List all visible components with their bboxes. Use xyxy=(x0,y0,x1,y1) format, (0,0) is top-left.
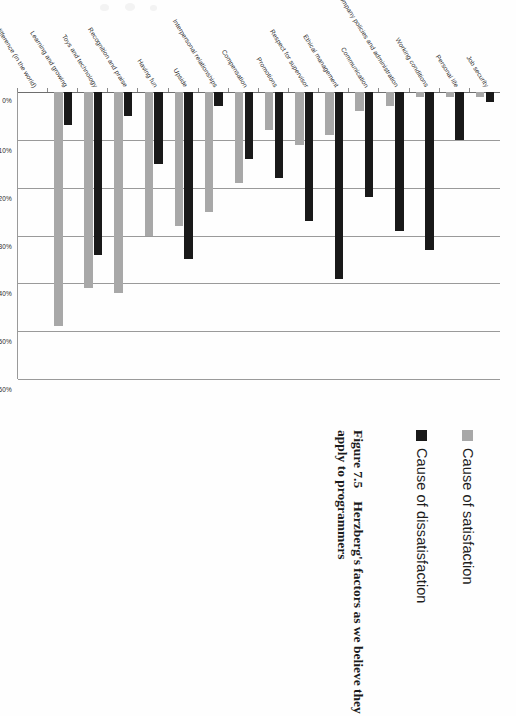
bar-satisfaction xyxy=(355,92,363,111)
bar-dissatisfaction xyxy=(335,92,343,279)
figure-caption: Figure 7.5Herzberg's factors as we belie… xyxy=(334,430,366,716)
bar-group: Recognition and praise xyxy=(108,92,138,379)
bar-satisfaction xyxy=(205,92,213,212)
bar-satisfaction xyxy=(175,92,183,226)
bar-group: Learning and growing xyxy=(48,92,78,379)
category-label: Promotions xyxy=(256,57,279,89)
bar-group: Personal life xyxy=(440,92,470,379)
category-label: Personal life xyxy=(435,54,460,89)
bar-satisfaction xyxy=(476,92,484,97)
bar-group: Compensation xyxy=(229,92,259,379)
bar-dissatisfaction xyxy=(395,92,403,231)
axis-tick-label: 60% xyxy=(0,386,12,393)
bar-group: Working conditions xyxy=(410,92,440,379)
bar-satisfaction xyxy=(446,92,454,97)
axis-tick-label: 30% xyxy=(0,242,12,249)
figure-number: Figure 7.5 xyxy=(351,430,366,488)
bar-group: Respect for supervisor xyxy=(289,92,319,379)
bar-dissatisfaction xyxy=(486,92,494,102)
bar-dissatisfaction xyxy=(184,92,192,259)
page-canvas: 0%10%20%30%40%50%60%Job securityPersonal… xyxy=(0,0,516,716)
bar-satisfaction xyxy=(386,92,394,106)
legend-swatch-dissatisfaction xyxy=(417,430,428,441)
plot-area: 0%10%20%30%40%50%60%Job securityPersonal… xyxy=(18,92,500,379)
legend-label-satisfaction: Cause of satisfaction xyxy=(460,448,476,585)
bar-group: Interpersonal relationships xyxy=(199,92,229,379)
legend-item-dissatisfaction: Cause of dissatisfaction xyxy=(414,430,430,680)
rotated-figure: 0%10%20%30%40%50%60%Job securityPersonal… xyxy=(0,0,516,716)
bar-dissatisfaction xyxy=(455,92,463,140)
axis-tick-label: 10% xyxy=(0,147,12,154)
bar-group: Communication xyxy=(349,92,379,379)
axis-tick-label: 20% xyxy=(0,194,12,201)
bar-satisfaction xyxy=(416,92,424,97)
bar-dissatisfaction xyxy=(365,92,373,197)
category-label: Company policies and administration xyxy=(336,0,400,89)
bar-chart: 0%10%20%30%40%50%60%Job securityPersonal… xyxy=(0,0,516,716)
bar-satisfaction xyxy=(235,92,243,183)
axis-tick-label: 0% xyxy=(2,97,12,104)
category-tick xyxy=(17,88,18,92)
bar-group: Job security xyxy=(470,92,500,379)
category-label: Job security xyxy=(465,55,490,89)
bar-satisfaction xyxy=(114,92,122,293)
bar-satisfaction xyxy=(265,92,273,130)
category-label: Making a difference (in the world) xyxy=(0,1,38,89)
bar-group: Toys and technology xyxy=(78,92,108,379)
axis-tick-label: 40% xyxy=(0,290,12,297)
bar-group: Making a difference (in the world) xyxy=(18,92,48,379)
bar-dissatisfaction xyxy=(214,92,222,106)
bar-dissatisfaction xyxy=(64,92,72,125)
bar-satisfaction xyxy=(84,92,92,288)
category-label: Upside xyxy=(172,68,189,89)
bar-dissatisfaction xyxy=(305,92,313,221)
category-label: Compensation xyxy=(221,49,249,89)
bar-group: Ethical management xyxy=(319,92,349,379)
bar-dissatisfaction xyxy=(245,92,253,159)
legend-item-satisfaction: Cause of satisfaction xyxy=(460,430,476,680)
category-label: Having fun xyxy=(136,58,159,89)
bar-dissatisfaction xyxy=(154,92,162,164)
bar-dissatisfaction xyxy=(124,92,132,116)
legend-label-dissatisfaction: Cause of dissatisfaction xyxy=(414,448,430,604)
gridline xyxy=(18,379,500,380)
bar-satisfaction xyxy=(145,92,153,236)
axis-tick-label: 50% xyxy=(0,338,12,345)
category-label: Working conditions xyxy=(394,37,430,88)
chart-legend: Cause of satisfaction Cause of dissatisf… xyxy=(384,430,476,680)
bar-group: Promotions xyxy=(259,92,289,379)
bar-satisfaction xyxy=(54,92,62,326)
bar-group: Having fun xyxy=(139,92,169,379)
bar-dissatisfaction xyxy=(425,92,433,250)
bar-group: Upside xyxy=(169,92,199,379)
bar-group: Company policies and administration xyxy=(380,92,410,379)
legend-swatch-satisfaction xyxy=(463,430,474,441)
bar-satisfaction xyxy=(295,92,303,145)
bar-dissatisfaction xyxy=(275,92,283,178)
bar-satisfaction xyxy=(325,92,333,135)
category-label: Communication xyxy=(339,46,369,89)
bar-dissatisfaction xyxy=(94,92,102,255)
